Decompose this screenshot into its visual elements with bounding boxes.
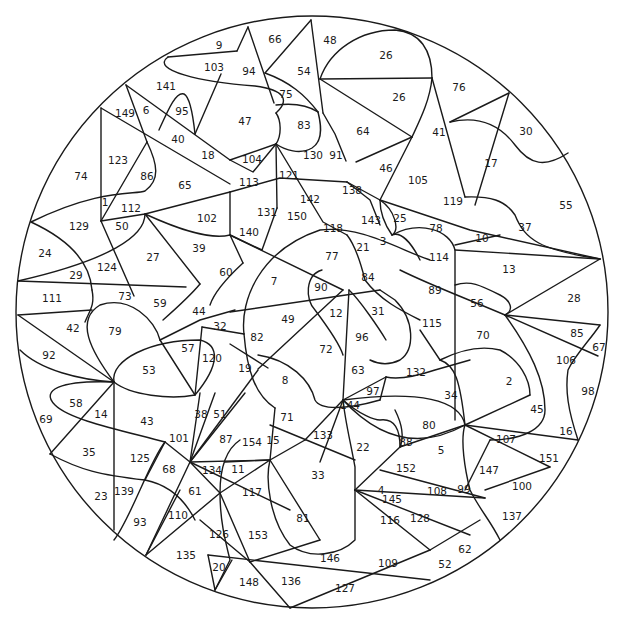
region-number-label: 133: [313, 429, 333, 441]
region-number-label: 24: [38, 247, 52, 259]
region-number-label: 121: [279, 169, 299, 181]
region-number-label: 152: [396, 462, 416, 474]
region-number-label: 147: [479, 464, 499, 476]
region-number-label: 106: [556, 354, 576, 366]
region-number-label: 52: [438, 558, 451, 570]
region-number-label: 76: [452, 81, 466, 93]
region-number-label: 110: [168, 509, 188, 521]
region-number-label: 153: [248, 529, 268, 541]
region-number-label: 1: [102, 196, 109, 208]
region-number-label: 144: [340, 399, 360, 411]
region-number-label: 61: [188, 485, 201, 497]
region-number-label: 142: [300, 193, 320, 205]
region-number-label: 90: [314, 281, 327, 293]
region-number-label: 4: [378, 484, 385, 496]
region-number-label: 58: [69, 397, 82, 409]
region-number-label: 114: [429, 251, 449, 263]
region-number-label: 101: [169, 432, 189, 444]
region-number-label: 59: [153, 297, 166, 309]
region-number-label: 139: [114, 485, 134, 497]
region-number-label: 141: [156, 80, 176, 92]
region-number-label: 56: [470, 297, 484, 309]
region-number-label: 130: [303, 149, 323, 161]
region-number-label: 17: [484, 157, 497, 169]
region-number-label: 128: [410, 512, 430, 524]
region-number-label: 78: [429, 222, 442, 234]
region-number-label: 5: [438, 444, 445, 456]
region-number-label: 135: [176, 549, 196, 561]
region-number-label: 50: [115, 220, 128, 232]
region-number-label: 79: [108, 325, 121, 337]
region-number-label: 138: [342, 184, 362, 196]
region-number-label: 150: [287, 210, 307, 222]
region-number-label: 68: [162, 463, 175, 475]
region-number-label: 65: [178, 179, 191, 191]
region-number-label: 6: [143, 104, 150, 116]
region-number-label: 30: [519, 125, 532, 137]
region-number-label: 29: [69, 269, 82, 281]
region-number-label: 98: [581, 385, 594, 397]
region-number-label: 2: [506, 375, 513, 387]
region-number-label: 123: [108, 154, 128, 166]
region-number-label: 71: [280, 411, 293, 423]
region-number-label: 33: [311, 469, 324, 481]
region-number-label: 27: [146, 251, 159, 263]
region-number-label: 105: [408, 174, 428, 186]
region-number-label: 127: [335, 582, 355, 594]
region-number-label: 18: [201, 149, 214, 161]
region-number-label: 95: [175, 105, 188, 117]
region-number-label: 80: [422, 419, 435, 431]
region-number-label: 48: [323, 34, 336, 46]
region-number-label: 129: [69, 220, 89, 232]
region-number-label: 84: [361, 271, 375, 283]
region-number-label: 125: [130, 452, 150, 464]
region-number-label: 14: [94, 408, 108, 420]
region-number-label: 107: [496, 433, 516, 445]
region-number-label: 34: [444, 389, 458, 401]
region-number-label: 55: [559, 199, 572, 211]
region-number-label: 40: [171, 133, 184, 145]
region-number-label: 97: [366, 385, 379, 397]
region-number-label: 46: [379, 162, 393, 174]
region-number-label: 70: [476, 329, 489, 341]
region-number-label: 12: [329, 307, 342, 319]
region-number-label: 39: [192, 242, 205, 254]
region-number-labels: 9664810394542614175267614969547836441304…: [38, 33, 605, 594]
color-by-number-canvas: 9664810394542614175267614969547836441304…: [0, 0, 625, 618]
region-number-label: 94: [242, 65, 256, 77]
region-number-label: 20: [212, 561, 225, 573]
region-number-label: 64: [356, 125, 370, 137]
region-number-label: 28: [567, 292, 580, 304]
region-number-label: 57: [181, 342, 194, 354]
region-number-label: 120: [202, 352, 222, 364]
region-number-label: 74: [74, 170, 88, 182]
region-number-label: 43: [140, 415, 153, 427]
region-number-label: 9: [216, 39, 223, 51]
region-number-label: 32: [213, 320, 226, 332]
region-number-label: 89: [428, 284, 441, 296]
region-number-label: 85: [570, 327, 583, 339]
region-number-label: 47: [238, 115, 251, 127]
region-number-label: 8: [282, 374, 289, 386]
region-number-label: 41: [432, 126, 445, 138]
region-number-label: 126: [209, 528, 229, 540]
region-number-label: 37: [518, 221, 531, 233]
region-number-label: 54: [297, 65, 311, 77]
region-number-label: 116: [380, 514, 400, 526]
region-number-label: 26: [392, 91, 406, 103]
region-number-label: 69: [39, 413, 52, 425]
region-number-label: 100: [512, 480, 532, 492]
region-number-label: 22: [356, 441, 369, 453]
region-number-label: 73: [118, 290, 131, 302]
region-number-label: 104: [242, 153, 262, 165]
region-number-label: 146: [320, 552, 340, 564]
region-number-label: 111: [42, 292, 62, 304]
region-number-label: 15: [266, 434, 279, 446]
region-number-label: 148: [239, 576, 259, 588]
region-number-label: 81: [296, 512, 309, 524]
region-number-label: 23: [94, 490, 107, 502]
region-number-label: 140: [239, 226, 259, 238]
region-number-label: 143: [361, 214, 381, 226]
region-number-label: 16: [559, 425, 573, 437]
region-number-label: 66: [268, 33, 282, 45]
